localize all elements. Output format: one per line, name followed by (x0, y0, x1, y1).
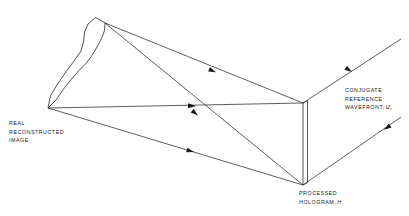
label-line-1: PROCESSED (299, 189, 341, 198)
arrowhead-icon (191, 109, 200, 117)
ray-hologram-top-to-image-apex (105, 23, 303, 103)
label-line-2: RECONSTRUCTED (9, 128, 64, 137)
label-line-3: IMAGE (9, 136, 64, 145)
ray-outgoing-lower-conjugate (303, 117, 401, 185)
arrowhead-icon (186, 148, 195, 155)
arrowhead-icon (208, 67, 217, 74)
hologram-symbol: H (337, 199, 341, 205)
real-reconstructed-image-label: REAL RECONSTRUCTED IMAGE (9, 119, 64, 145)
ray-hologram-top-to-image-tip (48, 103, 303, 108)
processed-hologram-plate (303, 101, 308, 186)
conjugate-reference-wavefront-label: CONJUGATE REFERENCE WAVEFRONT, U′r (345, 86, 392, 113)
wavefront-symbol-subscript: r (390, 106, 391, 111)
ray-hologram-bottom-to-image-apex (105, 23, 303, 185)
wavefront-text: WAVEFRONT, (345, 104, 385, 110)
ray-hologram-bottom-to-image-tip (48, 108, 303, 185)
label-line-2: HOLOGRAM, H (299, 198, 341, 207)
real-reconstructed-image-shape (48, 18, 105, 109)
hologram-text: HOLOGRAM, (299, 199, 336, 205)
label-line-3: WAVEFRONT, U′r (345, 103, 392, 113)
label-line-1: REAL (9, 119, 64, 128)
diagram-canvas: REAL RECONSTRUCTED IMAGE CONJUGATE REFER… (0, 0, 409, 216)
processed-hologram-label: PROCESSED HOLOGRAM, H (299, 189, 341, 206)
arrowhead-icon (188, 103, 196, 108)
label-line-1: CONJUGATE (345, 86, 392, 95)
label-line-2: REFERENCE (345, 95, 392, 104)
